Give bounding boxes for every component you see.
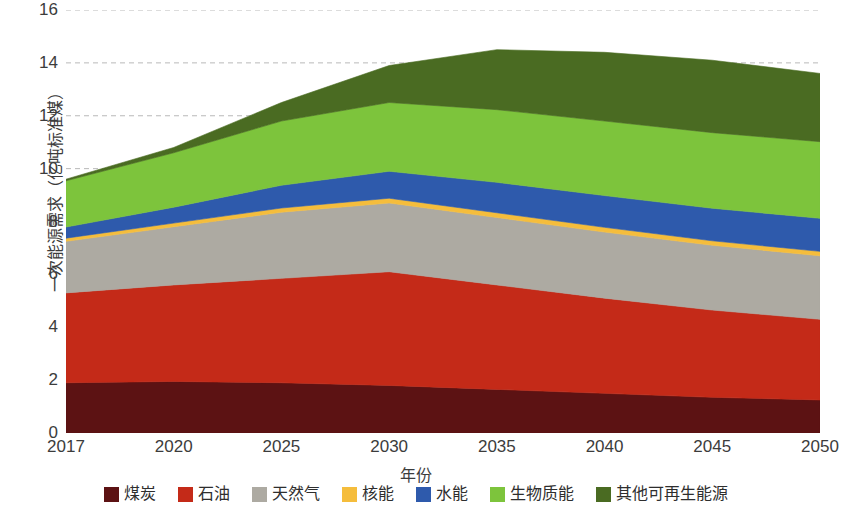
legend-swatch-icon bbox=[252, 487, 267, 502]
y-tick-label: 16 bbox=[18, 1, 58, 18]
plot-area bbox=[66, 10, 820, 433]
y-axis-tick-labels: 0246810121416 bbox=[0, 0, 58, 443]
legend-label: 生物质能 bbox=[510, 486, 574, 502]
x-axis-title: 年份 bbox=[0, 462, 832, 486]
y-tick-label: 8 bbox=[18, 213, 58, 230]
x-tick-label: 2025 bbox=[246, 438, 316, 455]
legend-label: 核能 bbox=[362, 486, 394, 502]
legend-label: 煤炭 bbox=[124, 486, 156, 502]
x-tick-label: 2045 bbox=[677, 438, 747, 455]
legend-swatch-icon bbox=[342, 487, 357, 502]
legend-item[interactable]: 其他可再生能源 bbox=[596, 486, 728, 502]
y-tick-label: 2 bbox=[18, 371, 58, 388]
x-tick-label: 2050 bbox=[785, 438, 843, 455]
y-tick-label: 14 bbox=[18, 54, 58, 71]
legend-swatch-icon bbox=[178, 487, 193, 502]
x-tick-label: 2030 bbox=[354, 438, 424, 455]
legend: 煤炭石油天然气核能水能生物质能其他可再生能源 bbox=[0, 486, 832, 502]
plot-svg bbox=[66, 10, 820, 433]
legend-label: 水能 bbox=[436, 486, 468, 502]
x-tick-label: 2020 bbox=[139, 438, 209, 455]
x-tick-label: 2017 bbox=[31, 438, 101, 455]
legend-item[interactable]: 煤炭 bbox=[104, 486, 156, 502]
legend-label: 石油 bbox=[198, 486, 230, 502]
legend-item[interactable]: 石油 bbox=[178, 486, 230, 502]
legend-swatch-icon bbox=[490, 487, 505, 502]
y-tick-label: 12 bbox=[18, 107, 58, 124]
legend-label: 天然气 bbox=[272, 486, 320, 502]
legend-item[interactable]: 生物质能 bbox=[490, 486, 574, 502]
legend-swatch-icon bbox=[104, 487, 119, 502]
y-tick-label: 10 bbox=[18, 160, 58, 177]
legend-label: 其他可再生能源 bbox=[616, 486, 728, 502]
legend-item[interactable]: 核能 bbox=[342, 486, 394, 502]
y-tick-label: 4 bbox=[18, 318, 58, 335]
legend-item[interactable]: 水能 bbox=[416, 486, 468, 502]
legend-swatch-icon bbox=[596, 487, 611, 502]
x-axis-tick-labels: 20172020202520302035204020452050 bbox=[66, 438, 820, 464]
y-tick-label: 6 bbox=[18, 265, 58, 282]
x-tick-label: 2035 bbox=[462, 438, 532, 455]
legend-swatch-icon bbox=[416, 487, 431, 502]
x-tick-label: 2040 bbox=[570, 438, 640, 455]
legend-item[interactable]: 天然气 bbox=[252, 486, 320, 502]
